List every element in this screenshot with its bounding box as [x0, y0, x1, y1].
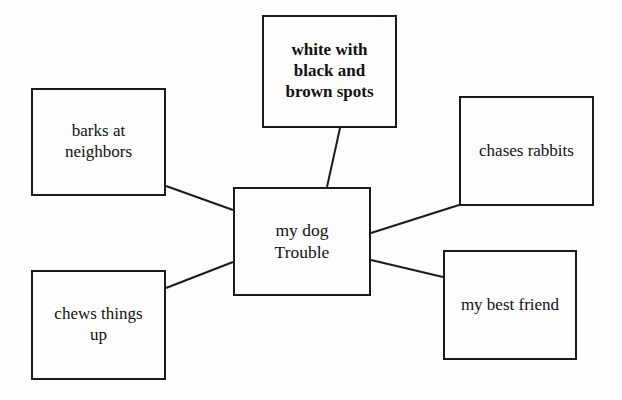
- concept-map-canvas: white with black and brown spots barks a…: [0, 0, 622, 400]
- node-center-my-dog-trouble: my dog Trouble: [233, 187, 371, 296]
- connector-appearance-to-center: [327, 128, 340, 187]
- node-appearance: white with black and brown spots: [262, 15, 397, 128]
- connector-chews-to-center: [166, 262, 233, 288]
- connector-barks-to-center: [166, 186, 233, 210]
- node-chases-rabbits: chases rabbits: [459, 96, 594, 206]
- node-chases-rabbits-label: chases rabbits: [479, 141, 574, 162]
- connector-center-to-chases: [371, 205, 459, 233]
- connector-center-to-friend: [371, 260, 443, 277]
- node-barks-at-neighbors: barks at neighbors: [31, 88, 166, 196]
- node-appearance-label: white with black and brown spots: [285, 40, 373, 102]
- node-chews-things-up-label: chews things up: [54, 304, 142, 345]
- node-barks-at-neighbors-label: barks at neighbors: [65, 121, 132, 162]
- node-my-best-friend-label: my best friend: [461, 295, 559, 316]
- node-chews-things-up: chews things up: [31, 270, 166, 380]
- node-my-best-friend: my best friend: [443, 250, 577, 360]
- node-center-label: my dog Trouble: [275, 220, 330, 263]
